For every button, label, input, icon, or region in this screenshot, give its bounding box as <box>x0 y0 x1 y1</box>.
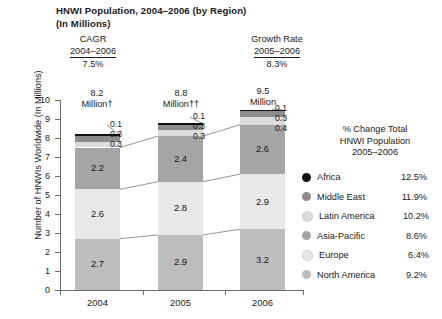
y-tick-label-10: 10 <box>28 96 50 105</box>
bar-segment-label-2005-asia-pacific: 2.4 <box>158 154 203 163</box>
connector-line <box>203 125 240 136</box>
legend-item-label: Africa <box>317 172 393 182</box>
x-tick-label-2004: 2004 <box>68 297 128 308</box>
y-tick-3 <box>55 233 61 234</box>
bar-segment-2006-europe[interactable]: 2.9 <box>240 174 285 229</box>
legend-swatch-icon <box>302 173 311 182</box>
x-tick-2 <box>225 290 226 295</box>
y-tick-1 <box>55 271 61 272</box>
legend-item-north-america[interactable]: North America9.2% <box>302 265 442 285</box>
legend-item-label: Latin America <box>319 211 395 221</box>
legend-item-label: North America <box>317 270 393 280</box>
y-tick-5 <box>55 195 61 196</box>
connector-line <box>120 136 158 147</box>
x-tick-0 <box>60 290 61 295</box>
plot-area: Number of HNWIs Worldwide (In Millions) … <box>0 0 310 319</box>
legend-item-percent: 12.5% <box>393 172 427 182</box>
legend-item-middle-east[interactable]: Middle East11.9% <box>302 187 442 207</box>
chart-root: HNWI Population, 2004–2006 (by Region) (… <box>0 0 442 319</box>
legend-item-europe[interactable]: Europe6.4% <box>302 246 442 266</box>
x-axis-line <box>60 290 303 291</box>
y-tick-label-4: 4 <box>28 210 50 219</box>
bar-segment-2006-north-america[interactable]: 3.2 <box>240 229 285 290</box>
bar-segment-label-2006-europe: 2.9 <box>240 197 285 206</box>
x-tick-3 <box>303 290 304 295</box>
legend-title-line-2: HNWI Population <box>308 136 442 148</box>
legend-title: % Change Total HNWI Population 2005–2006 <box>308 124 442 159</box>
legend-item-label: Europe <box>319 250 395 260</box>
legend-item-percent: 6.4% <box>395 250 429 260</box>
callout-2004-2: 0.3 <box>110 140 122 150</box>
y-tick-8 <box>55 138 61 139</box>
y-tick-2 <box>55 252 61 253</box>
y-tick-9 <box>55 119 61 120</box>
y-tick-label-8: 8 <box>28 134 50 143</box>
bar-segment-2005-europe[interactable]: 2.8 <box>158 182 203 235</box>
x-tick-label-2005: 2005 <box>151 297 211 308</box>
y-tick-label-6: 6 <box>28 172 50 181</box>
y-tick-label-9: 9 <box>28 115 50 124</box>
y-tick-10 <box>55 100 61 101</box>
bar-segment-label-2006-north-america: 3.2 <box>240 255 285 264</box>
legend-swatch-icon <box>302 250 313 261</box>
bar-segment-2004-asia-pacific[interactable]: 2.2 <box>75 148 120 190</box>
callout-2005-2: 0.3 <box>193 132 205 142</box>
legend-item-label: Middle East <box>317 192 393 202</box>
legend-swatch-icon <box>302 211 313 222</box>
legend-title-line-3: 2005–2006 <box>308 147 442 159</box>
bar-segment-label-2006-asia-pacific: 2.6 <box>240 144 285 153</box>
legend-item-latin-america[interactable]: Latin America10.2% <box>302 207 442 227</box>
legend-swatch-icon <box>302 270 311 279</box>
legend-item-percent: 11.9% <box>393 192 427 202</box>
legend-swatch-icon <box>302 192 311 201</box>
legend-items: Africa12.5%Middle East11.9%Latin America… <box>302 168 442 285</box>
y-tick-label-5: 5 <box>28 191 50 200</box>
bar-segment-label-2005-north-america: 2.9 <box>158 257 203 266</box>
y-tick-label-7: 7 <box>28 153 50 162</box>
bar-segment-2004-north-america[interactable]: 2.7 <box>75 239 120 290</box>
y-tick-label-1: 1 <box>28 267 50 276</box>
legend-item-label: Asia-Pacific <box>317 231 393 241</box>
callout-2006-2: 0.4 <box>275 124 287 134</box>
legend-item-percent: 9.2% <box>393 270 427 280</box>
legend: % Change Total HNWI Population 2005–2006… <box>302 124 442 285</box>
legend-item-percent: 10.2% <box>395 211 429 221</box>
x-tick-label-2006: 2006 <box>233 297 293 308</box>
bar-segment-label-2004-europe: 2.6 <box>75 209 120 218</box>
y-tick-4 <box>55 214 61 215</box>
bar-segment-2005-asia-pacific[interactable]: 2.4 <box>158 136 203 182</box>
legend-item-percent: 8.6% <box>393 231 427 241</box>
legend-title-line-1: % Change Total <box>308 124 442 136</box>
legend-swatch-icon <box>302 231 311 240</box>
bar-segment-label-2004-asia-pacific: 2.2 <box>75 163 120 172</box>
legend-item-asia-pacific[interactable]: Asia-Pacific8.6% <box>302 226 442 246</box>
connector-line <box>203 229 240 235</box>
bar-segment-label-2004-north-america: 2.7 <box>75 259 120 268</box>
bar-segment-2004-europe[interactable]: 2.6 <box>75 189 120 238</box>
bar-segment-label-2005-europe: 2.8 <box>158 203 203 212</box>
legend-item-africa[interactable]: Africa12.5% <box>302 168 442 188</box>
y-tick-label-3: 3 <box>28 229 50 238</box>
x-tick-1 <box>143 290 144 295</box>
y-tick-label-0: 0 <box>28 286 50 295</box>
connector-line <box>120 235 158 239</box>
y-tick-label-2: 2 <box>28 248 50 257</box>
connector-line <box>120 182 158 190</box>
connector-line <box>203 174 240 182</box>
y-tick-6 <box>55 176 61 177</box>
y-tick-7 <box>55 157 61 158</box>
bar-segment-2005-north-america[interactable]: 2.9 <box>158 235 203 290</box>
